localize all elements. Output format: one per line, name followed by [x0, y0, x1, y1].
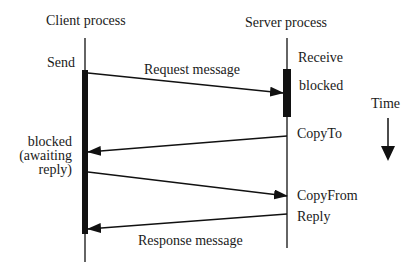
copyto-label: CopyTo	[297, 127, 342, 141]
send-label: Send	[47, 56, 75, 70]
reply-label: Reply	[297, 210, 330, 224]
copyfrom-arrow	[88, 172, 287, 196]
client-blocked-label-line2: (awaiting	[0, 149, 72, 163]
server-process-title: Server process	[245, 16, 327, 30]
receive-label: Receive	[298, 51, 343, 65]
response-message-label: Response message	[138, 234, 243, 248]
client-blocked-label-line1: blocked	[0, 135, 72, 149]
copyfrom-label: CopyFrom	[297, 189, 358, 203]
response-arrow	[88, 214, 287, 229]
time-arrow-head-icon	[381, 146, 395, 161]
request-message-label: Request message	[144, 63, 240, 77]
client-blocked-bar	[82, 70, 88, 234]
client-blocked-label-line3: reply)	[0, 163, 72, 177]
server-blocked-bar	[283, 69, 291, 117]
server-blocked-label: blocked	[299, 79, 343, 93]
client-process-title: Client process	[46, 14, 126, 28]
copyto-arrow	[88, 136, 287, 152]
time-label: Time	[371, 97, 400, 111]
